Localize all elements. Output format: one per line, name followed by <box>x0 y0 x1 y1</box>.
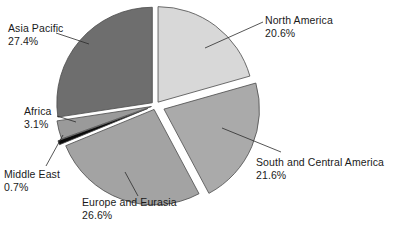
slice-label-name: North America <box>265 14 333 27</box>
pie-slice-north-america: North America 20.6% <box>158 7 250 103</box>
pie-slice-asia-pacific: Asia Pacific 27.4% <box>57 7 153 117</box>
slice-label-europe-and-eurasia: Europe and Eurasia 26.6% <box>82 196 177 221</box>
slice-label-value: 20.6% <box>265 27 333 40</box>
slice-label-name: Europe and Eurasia <box>82 196 177 209</box>
slice-label-value: 21.6% <box>256 169 384 182</box>
slice-label-value: 3.1% <box>24 118 51 131</box>
slice-label-name: Africa <box>24 105 51 118</box>
slice-label-name: Asia Pacific <box>8 22 63 35</box>
slice-label-middle-east: Middle East 0.7% <box>4 168 60 193</box>
slice-label-asia-pacific: Asia Pacific 27.4% <box>8 22 63 47</box>
slice-label-africa: Africa 3.1% <box>24 105 51 130</box>
slice-label-value: 26.6% <box>82 209 177 222</box>
leader-line-middle-east <box>46 135 63 166</box>
slice-label-south-and-central-america: South and Central America 21.6% <box>256 156 384 181</box>
slice-label-name: South and Central America <box>256 156 384 169</box>
slice-label-north-america: North America 20.6% <box>265 14 333 39</box>
slice-label-value: 0.7% <box>4 181 60 194</box>
pie-slice-group: North America 20.6%South and Central Ame… <box>57 7 260 205</box>
pie-chart-figure: North America 20.6%South and Central Ame… <box>0 0 393 229</box>
slice-label-name: Middle East <box>4 168 60 181</box>
slice-label-value: 27.4% <box>8 35 63 48</box>
